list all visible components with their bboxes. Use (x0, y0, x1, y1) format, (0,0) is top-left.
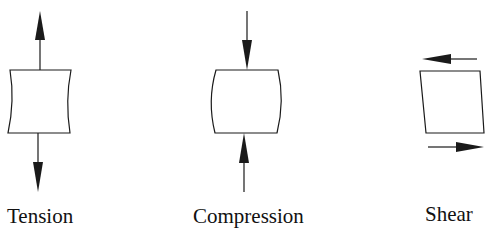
shear-bottom-arrowhead-icon (456, 142, 484, 152)
tension-panel (8, 11, 71, 192)
tension-top-arrowhead-icon (35, 11, 45, 40)
compression-top-arrowhead-icon (242, 40, 252, 70)
shear-top-arrowhead-icon (422, 54, 451, 64)
stress-diagram: Tension Compression Shear (0, 0, 493, 239)
compression-bottom-arrowhead-icon (239, 133, 249, 163)
shear-label: Shear (425, 204, 473, 225)
shear-panel (420, 54, 484, 152)
tension-bottom-arrowhead-icon (33, 162, 43, 192)
compression-panel (211, 11, 281, 192)
compression-label: Compression (193, 206, 304, 227)
tension-block (8, 70, 71, 133)
shear-block (420, 71, 484, 133)
compression-block (211, 70, 281, 133)
tension-label: Tension (7, 206, 73, 227)
